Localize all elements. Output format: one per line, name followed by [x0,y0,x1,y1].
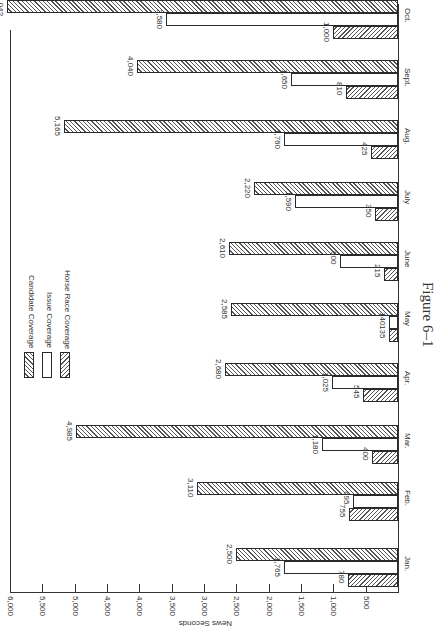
value-axis-tick [139,584,140,592]
category-label: Jan. [403,556,412,571]
bar-horse-race [375,208,398,221]
bar-horse-race [384,268,398,281]
bar-value-label: 4,985 [65,421,74,441]
bar-value-label: 2,220 [243,178,252,198]
value-axis-tick [42,584,43,592]
value-axis-tick [75,584,76,592]
value-axis-tick [236,584,237,592]
bar-value-label: 810 [335,82,344,95]
value-axis-tick [204,584,205,592]
bar-value-label: 140 [378,312,387,325]
category-label: Aug. [403,128,412,144]
bar-horse-race [346,86,398,99]
bar-value-label: 400 [361,447,370,460]
bar-issue [291,73,398,86]
legend-swatch-issue [42,352,52,378]
bar-horse-race [349,508,398,521]
category-label: Apr. [403,371,412,385]
value-axis-tick [10,584,11,592]
bar-value-label: 900 [329,251,338,264]
bar-value-label: 755 [338,504,347,517]
value-axis-line [10,592,399,593]
bar-horse-race [333,26,398,39]
bar-candidate [225,363,398,376]
bar-candidate [229,242,398,255]
figure-title: Figure 6–1 [419,282,436,347]
value-axis-tick-label: 5,000 [71,596,80,616]
bar-issue [284,133,398,146]
bar-value-label: 1,180 [311,434,320,454]
value-axis-tick [269,584,270,592]
value-axis-tick-label: 5,500 [38,596,47,616]
bar-value-label: 780 [337,570,346,583]
bar-candidate [236,548,398,561]
bar-issue [166,13,398,26]
bar-candidate [7,0,398,13]
value-axis-tick [333,584,334,592]
bar-value-label: 6,04? [0,0,5,16]
value-axis-tick-label: 500 [362,596,371,609]
bar-issue [389,316,398,329]
bar-value-label: 1,000 [322,22,331,42]
value-axis-tick-label: 3,000 [200,596,209,616]
bar-candidate [254,182,398,195]
category-label: Sept. [403,68,412,87]
bar-value-label: 425 [360,142,369,155]
bar-value-label: 350 [364,204,373,217]
bar-value-label: 545 [352,385,361,398]
legend-label-horse-race: Horse Race Coverage [63,270,72,349]
bar-value-label: 3,580 [155,9,164,29]
bar-value-label: 695 [342,491,351,504]
bar-candidate [76,425,398,438]
category-axis-line [398,4,399,593]
value-axis-tick [301,584,302,592]
value-axis-tick-label: 1,500 [297,596,306,616]
bar-horse-race [371,146,398,159]
value-axis-tick-label: 4,500 [103,596,112,616]
category-label: July [403,190,412,204]
bar-candidate [137,60,398,73]
bar-candidate [197,482,398,495]
category-label: Mar. [403,433,412,449]
bar-issue [353,495,398,508]
bar-value-label: 1,760 [273,129,282,149]
bar-value-label: 1,650 [280,69,289,89]
value-axis-tick-label: 3,500 [168,596,177,616]
bar-candidate [231,303,398,316]
bar-value-label: 215 [373,264,382,277]
value-axis-title: News Seconds [179,619,232,628]
category-label: Feb. [403,490,412,506]
frame-left-line [10,30,11,592]
legend-swatch-candidate [24,352,34,378]
bar-candidate [64,120,398,133]
value-axis-tick-label: 2,500 [232,596,241,616]
legend-swatch-horse-race [60,352,70,378]
value-axis-tick-label: 6,000 [6,596,15,616]
bar-value-label: 135 [378,325,387,338]
bar-horse-race [389,329,398,342]
category-label: Oct. [403,8,412,23]
legend-label-candidate: Candidate Coverage [27,275,36,348]
bar-value-label: 1,590 [284,191,293,211]
bar-horse-race [372,451,398,464]
bar-horse-race [348,574,398,587]
bar-horse-race [363,389,398,402]
bar-value-label: 1,765 [273,557,282,577]
bar-value-label: 2,610 [218,238,227,258]
value-axis-tick-label: 1,000 [329,596,338,616]
bar-value-label: 2,585 [220,299,229,319]
bar-chart: 5001,0001,5002,0002,5003,0003,5004,0004,… [0,0,438,634]
value-axis-tick [107,584,108,592]
category-label: June [403,250,412,267]
legend-label-issue: Issue Coverage [45,292,54,348]
bar-value-label: 2,680 [214,359,223,379]
value-axis-tick-label: 4,000 [135,596,144,616]
bar-value-label: 3,110 [186,478,195,497]
bar-issue [340,255,398,268]
bar-value-label: 4,040 [126,56,135,76]
category-label: May [403,311,412,326]
bar-issue [332,376,398,389]
value-axis-tick [172,584,173,592]
bar-issue [322,438,398,451]
value-axis-tick-label: 2,000 [265,596,274,616]
